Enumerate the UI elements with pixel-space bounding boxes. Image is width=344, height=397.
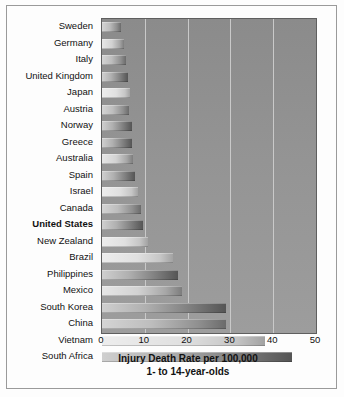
- bar-row: [102, 151, 316, 168]
- bar-greece: [102, 138, 132, 148]
- bar-austria: [102, 105, 129, 115]
- category-label-vietnam: Vietnam: [0, 332, 97, 349]
- axis-title-line-1: Injury Death Rate per 100,000: [60, 352, 316, 365]
- bar-united-states: [102, 220, 143, 230]
- bar-germany: [102, 39, 124, 49]
- bar-row: [102, 250, 316, 267]
- bar-row: [102, 118, 316, 135]
- bar-row: [102, 201, 316, 218]
- axis-title: Injury Death Rate per 100,000 1- to 14-y…: [60, 352, 316, 378]
- category-label-new-zealand: New Zealand: [0, 233, 97, 250]
- category-label-greece: Greece: [0, 134, 97, 151]
- bar-united-kingdom: [102, 72, 128, 82]
- bar-row: [102, 168, 316, 185]
- xtick-label-10: 10: [139, 334, 150, 345]
- bar-mexico: [102, 286, 182, 296]
- bar-brazil: [102, 253, 173, 263]
- bar-china: [102, 319, 226, 329]
- category-label-philippines: Philippines: [0, 266, 97, 283]
- category-label-canada: Canada: [0, 200, 97, 217]
- bar-sweden: [102, 22, 121, 32]
- bar-south-korea: [102, 303, 226, 313]
- bar-row: [102, 300, 316, 317]
- category-label-spain: Spain: [0, 167, 97, 184]
- bar-spain: [102, 171, 135, 181]
- bar-israel: [102, 187, 138, 197]
- xtick-label-40: 40: [267, 334, 278, 345]
- xtick-label-30: 30: [224, 334, 235, 345]
- bar-norway: [102, 121, 132, 131]
- bar-row: [102, 85, 316, 102]
- bar-italy: [102, 55, 126, 65]
- bar-philippines: [102, 270, 178, 280]
- plot-area: [101, 18, 317, 334]
- bar-row: [102, 316, 316, 333]
- category-label-austria: Austria: [0, 101, 97, 118]
- bar-row: [102, 267, 316, 284]
- bar-australia: [102, 154, 133, 164]
- bar-row: [102, 102, 316, 119]
- bar-new-zealand: [102, 237, 148, 247]
- bar-japan: [102, 88, 130, 98]
- xtick-label-20: 20: [181, 334, 192, 345]
- category-label-united-kingdom: United Kingdom: [0, 68, 97, 85]
- bar-row: [102, 19, 316, 36]
- xtick-label-50: 50: [310, 334, 321, 345]
- category-axis-labels: SwedenGermanyItalyUnited KingdomJapanAus…: [0, 18, 97, 332]
- value-axis-ticks: 01020304050: [101, 334, 315, 348]
- injury-death-rate-bar-chart: SwedenGermanyItalyUnited KingdomJapanAus…: [0, 0, 344, 397]
- category-label-united-states: United States: [0, 216, 97, 233]
- category-label-south-korea: South Korea: [0, 299, 97, 316]
- bar-series: [102, 19, 316, 333]
- bar-row: [102, 135, 316, 152]
- category-label-australia: Australia: [0, 150, 97, 167]
- category-label-mexico: Mexico: [0, 282, 97, 299]
- xtick-label-0: 0: [98, 334, 103, 345]
- category-label-japan: Japan: [0, 84, 97, 101]
- category-label-china: China: [0, 315, 97, 332]
- bar-row: [102, 184, 316, 201]
- bar-row: [102, 36, 316, 53]
- bar-row: [102, 234, 316, 251]
- bar-row: [102, 217, 316, 234]
- axis-title-line-2: 1- to 14-year-olds: [60, 365, 316, 378]
- category-label-norway: Norway: [0, 117, 97, 134]
- bar-canada: [102, 204, 141, 214]
- category-label-brazil: Brazil: [0, 249, 97, 266]
- category-label-italy: Italy: [0, 51, 97, 68]
- category-label-sweden: Sweden: [0, 18, 97, 35]
- bar-row: [102, 69, 316, 86]
- bar-row: [102, 52, 316, 69]
- bar-row: [102, 283, 316, 300]
- category-label-germany: Germany: [0, 35, 97, 52]
- category-label-israel: Israel: [0, 183, 97, 200]
